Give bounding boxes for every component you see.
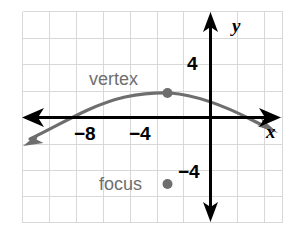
focus-point bbox=[163, 179, 173, 189]
focus-label: focus bbox=[99, 175, 142, 193]
y-tick-label-neg4: −4 bbox=[178, 162, 200, 181]
y-tick-label-4: 4 bbox=[187, 54, 198, 73]
vertex-point bbox=[163, 88, 173, 98]
x-axis-label: x bbox=[266, 122, 276, 141]
y-axis-label: y bbox=[232, 16, 240, 35]
graph-canvas bbox=[0, 0, 299, 230]
x-tick-label-neg4: −4 bbox=[129, 124, 151, 143]
parabola-figure: y x 4 −4 −8 −4 vertex focus bbox=[0, 0, 299, 230]
x-tick-label-neg8: −8 bbox=[74, 124, 96, 143]
coordinate-axes bbox=[22, 12, 281, 222]
vertex-label: vertex bbox=[89, 70, 138, 88]
